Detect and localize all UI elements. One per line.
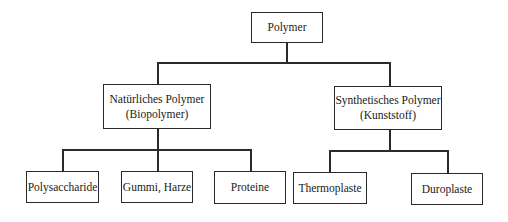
connector-root-down [286, 42, 288, 63]
connector-to-proteine [250, 149, 252, 172]
connector-synthetic-down [389, 129, 391, 151]
node-polymer-label: Polymer [268, 20, 307, 35]
node-proteine-label: Proteine [231, 180, 269, 195]
connector-synthetic-bar [329, 150, 448, 152]
node-duroplaste-label: Duroplaste [422, 182, 472, 197]
node-proteine: Proteine [214, 171, 286, 204]
polymer-classification-diagram: Polymer Natürliches Polymer (Biopolymer)… [0, 0, 508, 222]
connector-to-gummi [157, 149, 159, 172]
connector-to-duroplaste [447, 150, 449, 174]
node-synthetic-polymer-subtitle: (Kunststoff) [360, 108, 416, 123]
node-thermoplaste: Thermoplaste [293, 172, 367, 204]
connector-to-synthetic [389, 62, 391, 87]
node-polymer: Polymer [251, 12, 323, 43]
node-polysaccharide: Polysaccharide [26, 171, 99, 203]
node-thermoplaste-label: Thermoplaste [298, 181, 361, 196]
node-natural-polymer-title: Natürliches Polymer [110, 92, 205, 107]
connector-to-polysaccharide [62, 149, 64, 172]
connector-level1-bar [157, 62, 390, 64]
node-synthetic-polymer-title: Synthetisches Polymer [335, 93, 440, 108]
node-natural-polymer-subtitle: (Biopolymer) [126, 107, 189, 122]
node-duroplaste: Duroplaste [411, 173, 483, 205]
node-gummi-harze-label: Gummi, Harze [123, 180, 191, 195]
connector-to-natural [157, 62, 159, 85]
node-synthetic-polymer: Synthetisches Polymer (Kunststoff) [334, 86, 442, 130]
node-natural-polymer: Natürliches Polymer (Biopolymer) [103, 84, 211, 129]
node-gummi-harze: Gummi, Harze [121, 171, 193, 203]
connector-natural-down [157, 128, 159, 150]
connector-to-thermoplaste [329, 150, 331, 173]
node-polysaccharide-label: Polysaccharide [28, 180, 98, 195]
